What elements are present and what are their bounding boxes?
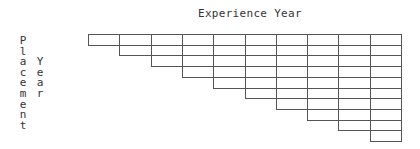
grid-cell [307,109,339,121]
grid-cell [119,45,152,56]
grid-cell [213,77,246,89]
grid-cell [88,34,120,46]
placement-label: Placement [18,36,28,131]
experience-year-title: Experience Year [198,7,302,20]
year-label: Year [35,57,45,99]
grid-cell [151,55,183,67]
label-char: r [35,89,45,100]
grid-cell [276,98,308,110]
grid-cell [370,130,402,142]
grid-cell [338,120,371,131]
label-char: t [18,121,28,132]
grid-cell [182,66,214,78]
grid-cell [245,88,277,99]
